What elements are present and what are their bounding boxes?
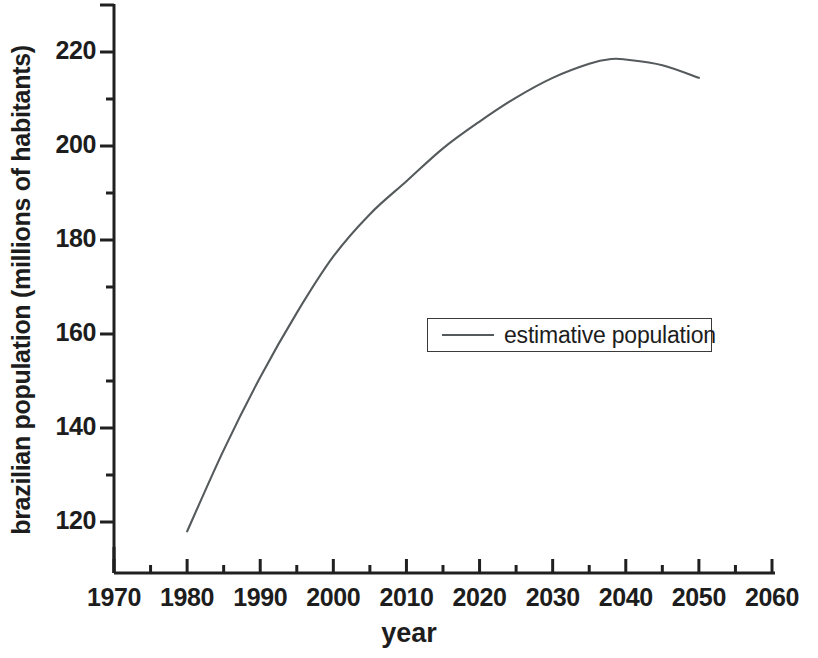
x-tick-label: 2000 — [306, 583, 360, 612]
x-tick-label: 2030 — [526, 583, 580, 612]
x-tick-label: 2050 — [672, 583, 726, 612]
chart-figure: brazilian population (millions of habita… — [0, 0, 818, 658]
y-tick-label: 160 — [55, 318, 96, 347]
chart-legend: estimative population — [427, 318, 712, 352]
y-tick-label: 180 — [55, 224, 96, 253]
legend-entry-label: estimative population — [504, 322, 716, 349]
x-tick-label: 2040 — [599, 583, 653, 612]
series-line-estimative-population — [187, 59, 699, 532]
x-tick-label: 2020 — [453, 583, 507, 612]
y-tick-label: 140 — [55, 412, 96, 441]
axis-lines — [114, 4, 775, 573]
x-tick-label: 1990 — [233, 583, 287, 612]
x-axis-title: year — [381, 618, 437, 649]
x-tick-label: 2060 — [745, 583, 799, 612]
y-axis-major-ticks — [100, 5, 114, 522]
y-tick-label: 200 — [55, 130, 96, 159]
x-tick-label: 1970 — [87, 583, 141, 612]
y-tick-label: 220 — [55, 36, 96, 65]
y-tick-label: 120 — [55, 506, 96, 535]
y-axis-title: brazilian population (millions of habita… — [7, 45, 35, 535]
x-tick-label: 2010 — [379, 583, 433, 612]
legend-line-swatch-icon — [442, 334, 494, 336]
x-tick-label: 1980 — [160, 583, 214, 612]
